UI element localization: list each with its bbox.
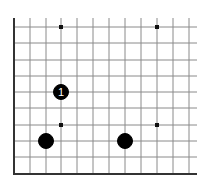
star-point-icon xyxy=(155,25,159,29)
black-stone xyxy=(118,134,133,149)
black-stone: 1 xyxy=(54,85,69,100)
star-point-icon xyxy=(59,25,63,29)
star-point-icon xyxy=(155,123,159,127)
stones-layer: 1 xyxy=(39,85,133,149)
black-stone xyxy=(39,134,54,149)
star-point-icon xyxy=(59,123,63,127)
move-number-label: 1 xyxy=(58,86,64,98)
board-grid xyxy=(13,18,197,175)
go-board: 1 xyxy=(0,0,207,189)
